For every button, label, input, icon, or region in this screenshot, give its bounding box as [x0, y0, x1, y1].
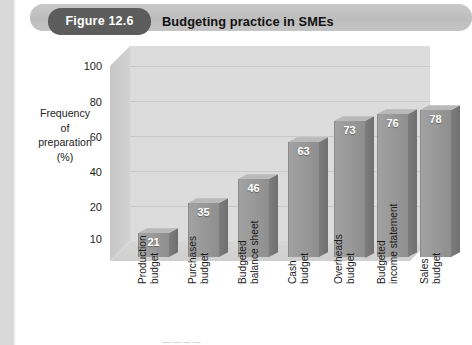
y-tick-label: 10: [74, 233, 102, 245]
bar-column[interactable]: 63: [288, 142, 319, 257]
x-category-label: Budgeted balance sheet: [237, 221, 261, 284]
bar-side-face: [408, 109, 417, 257]
y-tick-label: 60: [74, 131, 102, 143]
bar-side-face: [365, 116, 374, 257]
gridline: [130, 66, 430, 67]
y-axis-title-line-1: Frequency: [26, 106, 104, 121]
bar-side-face: [169, 228, 178, 257]
figure-number-label: Figure 12.6: [48, 8, 151, 35]
page-canvas: Figure 12.6 Budgeting practice in SMEs F…: [12, 0, 472, 345]
x-category-line-1: Cash: [287, 253, 299, 284]
x-category-label: Overheads budget: [333, 234, 357, 284]
x-category-line-1: Budgeted: [376, 204, 388, 284]
bar-side-face: [219, 198, 228, 257]
bar-value-label: 35: [188, 206, 219, 218]
x-category-label: Purchases budget: [187, 236, 211, 284]
y-axis-title-line-4: (%): [26, 150, 104, 165]
bar-front-face: [420, 110, 452, 257]
plot-left-wall: [110, 46, 130, 261]
x-category-line-2: balance sheet: [249, 221, 261, 284]
x-category-line-2: budget: [149, 235, 161, 284]
figure-title: Budgeting practice in SMEs: [162, 8, 334, 35]
bar-value-label: 73: [334, 124, 365, 136]
x-category-line-2: budget: [199, 236, 211, 284]
chart-figure: Frequency of preparation (%) 100 80 60 4…: [12, 34, 472, 334]
y-tick-label: 20: [74, 201, 102, 213]
bar-value-label: 63: [288, 145, 319, 157]
y-tick-label: 40: [74, 166, 102, 178]
x-category-label: Cash budget: [287, 253, 311, 284]
x-category-line-1: Budgeted: [237, 221, 249, 284]
bar-value-label: 46: [238, 182, 269, 194]
bar-value-label: 78: [420, 113, 451, 125]
gridline: [130, 101, 430, 102]
y-tick-label: 80: [74, 96, 102, 108]
x-category-label: Sales budget: [419, 253, 443, 284]
bar-value-label: 76: [377, 117, 408, 129]
x-category-label: Budgeted income statement: [376, 204, 400, 284]
x-category-line-1: Overheads: [333, 234, 345, 284]
x-category-line-2: budget: [345, 234, 357, 284]
cut-off-caption: — — — —: [162, 337, 462, 345]
bar-front-face: [288, 142, 320, 257]
x-category-line-1: Sales: [419, 253, 431, 284]
x-category-line-2: budget: [299, 253, 311, 284]
x-category-line-1: Purchases: [187, 236, 199, 284]
bar-side-face: [451, 105, 460, 257]
figure-number-pill: Figure 12.6: [48, 8, 151, 35]
y-tick-label: 100: [74, 60, 102, 72]
figure-banner: Figure 12.6 Budgeting practice in SMEs: [30, 4, 472, 31]
x-category-line-2: income statement: [388, 204, 400, 284]
x-category-label: Production budget: [137, 235, 161, 284]
bar-side-face: [269, 174, 278, 257]
x-category-line-2: budget: [431, 253, 443, 284]
x-category-line-1: Production: [137, 235, 149, 284]
bar-side-face: [319, 137, 328, 257]
bar-column[interactable]: 78: [420, 110, 451, 257]
